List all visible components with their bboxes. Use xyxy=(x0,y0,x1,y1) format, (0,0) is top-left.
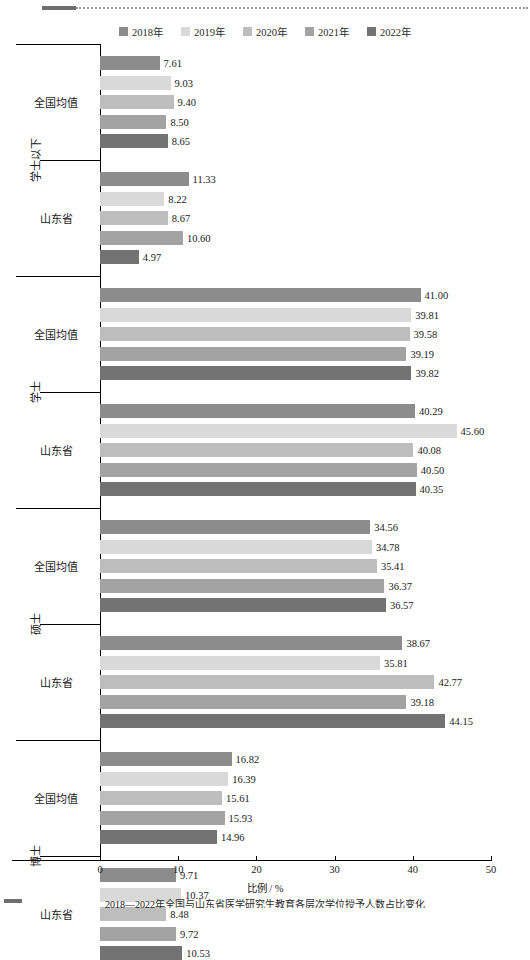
legend-label: 2018年 xyxy=(132,24,163,39)
bar-2019年: 39.81 xyxy=(100,308,411,322)
bar-2018年: 34.56 xyxy=(100,520,370,534)
bar-value-label: 8.67 xyxy=(172,213,190,224)
x-tick xyxy=(178,856,179,861)
x-tick-label: 50 xyxy=(471,864,511,875)
legend-swatch-icon xyxy=(367,27,376,36)
bar-value-label: 36.37 xyxy=(388,580,412,591)
bar-2019年: 8.22 xyxy=(100,192,164,206)
bar-value-label: 9.03 xyxy=(175,77,193,88)
group-separator xyxy=(16,44,100,45)
bar-value-label: 34.78 xyxy=(376,541,400,552)
bar-2021年: 8.50 xyxy=(100,115,166,129)
category-separator xyxy=(0,392,100,393)
legend-label: 2022年 xyxy=(380,24,411,39)
bar-value-label: 9.40 xyxy=(178,97,196,108)
group-label-学士以下: 学士以下 xyxy=(27,130,43,190)
bar-2021年: 10.60 xyxy=(100,231,183,245)
group-separator xyxy=(16,508,100,509)
bar-value-label: 39.82 xyxy=(415,368,439,379)
bar-2019年: 16.39 xyxy=(100,772,228,786)
legend-swatch-icon xyxy=(119,27,128,36)
bar-2020年: 8.48 xyxy=(100,907,166,921)
bar-value-label: 8.22 xyxy=(168,193,186,204)
bar-2021年: 39.18 xyxy=(100,695,406,709)
bar-2020年: 39.58 xyxy=(100,327,410,341)
bar-2021年: 39.19 xyxy=(100,347,406,361)
category-separator xyxy=(0,624,100,625)
category-label: 全国均值 xyxy=(18,94,94,110)
bar-2019年: 35.81 xyxy=(100,656,380,670)
category-label: 山东省 xyxy=(18,674,94,690)
legend-item-2021年: 2021年 xyxy=(305,24,349,39)
bar-2018年: 7.61 xyxy=(100,56,160,70)
x-tick xyxy=(335,856,336,861)
legend-swatch-icon xyxy=(181,27,190,36)
chart-plot-area: 7.619.039.408.508.65全国均值11.338.228.6710.… xyxy=(0,44,530,860)
chart-legend: 2018年2019年2020年2021年2022年 xyxy=(0,23,530,39)
bar-value-label: 16.39 xyxy=(232,773,256,784)
category-label: 山东省 xyxy=(18,906,94,922)
bar-value-label: 42.77 xyxy=(438,677,462,688)
bar-2018年: 16.82 xyxy=(100,752,232,766)
x-tick xyxy=(256,856,257,861)
bar-value-label: 39.58 xyxy=(414,329,438,340)
group-separator xyxy=(16,276,100,277)
bar-2022年: 39.82 xyxy=(100,366,411,380)
x-tick xyxy=(100,856,101,861)
bar-2020年: 15.61 xyxy=(100,791,222,805)
bar-value-label: 8.50 xyxy=(170,116,188,127)
bar-2019年: 34.78 xyxy=(100,540,372,554)
bar-value-label: 39.81 xyxy=(415,309,439,320)
bar-value-label: 11.33 xyxy=(193,174,216,185)
bar-2018年: 38.67 xyxy=(100,636,402,650)
bar-value-label: 39.18 xyxy=(410,696,434,707)
bar-value-label: 10.53 xyxy=(186,948,210,959)
legend-item-2022年: 2022年 xyxy=(367,24,411,39)
bar-value-label: 38.67 xyxy=(406,638,430,649)
bar-2022年: 4.97 xyxy=(100,250,139,264)
bar-value-label: 45.60 xyxy=(461,425,485,436)
bar-value-label: 7.61 xyxy=(164,58,182,69)
legend-swatch-icon xyxy=(243,27,252,36)
bar-2019年: 9.03 xyxy=(100,76,171,90)
bar-value-label: 4.97 xyxy=(143,252,161,263)
rule-dash xyxy=(42,6,76,10)
category-separator-line xyxy=(40,392,100,393)
bar-value-label: 9.72 xyxy=(180,928,198,939)
bar-2018年: 41.00 xyxy=(100,288,421,302)
bar-2022年: 10.53 xyxy=(100,946,182,960)
legend-swatch-icon xyxy=(305,27,314,36)
group-label-硕士: 硕士 xyxy=(27,594,43,654)
category-label: 全国均值 xyxy=(18,326,94,342)
bar-2022年: 36.57 xyxy=(100,598,386,612)
legend-label: 2021年 xyxy=(318,24,349,39)
bar-2018年: 40.29 xyxy=(100,404,415,418)
header-rule xyxy=(0,6,530,10)
bar-2020年: 40.08 xyxy=(100,443,413,457)
bar-value-label: 44.15 xyxy=(449,716,473,727)
bar-2022年: 8.65 xyxy=(100,134,168,148)
legend-label: 2020年 xyxy=(256,24,287,39)
bar-2018年: 11.33 xyxy=(100,172,189,186)
category-separator-line xyxy=(40,160,100,161)
bar-2021年: 40.50 xyxy=(100,463,417,477)
legend-item-2020年: 2020年 xyxy=(243,24,287,39)
bar-2021年: 9.72 xyxy=(100,927,176,941)
bar-value-label: 8.48 xyxy=(170,909,188,920)
x-axis-title: 比例 / % xyxy=(0,880,530,895)
bar-2019年: 45.60 xyxy=(100,424,457,438)
bar-2022年: 14.96 xyxy=(100,830,217,844)
bar-2020年: 8.67 xyxy=(100,211,168,225)
bar-2020年: 42.77 xyxy=(100,675,434,689)
x-tick-label: 10 xyxy=(158,864,198,875)
bar-value-label: 40.35 xyxy=(420,484,444,495)
bar-2022年: 44.15 xyxy=(100,714,445,728)
category-separator-line xyxy=(40,856,100,857)
bar-value-label: 35.81 xyxy=(384,657,408,668)
bar-2021年: 36.37 xyxy=(100,579,384,593)
rule-dots xyxy=(76,7,528,9)
bar-value-label: 15.93 xyxy=(229,812,253,823)
x-tick xyxy=(413,856,414,861)
group-label-学士: 学士 xyxy=(27,362,43,422)
bar-2020年: 9.40 xyxy=(100,95,174,109)
